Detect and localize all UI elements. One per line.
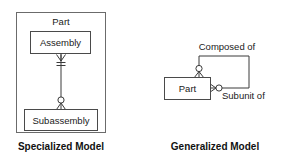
er-diagram-figure: Part Assembly	[0, 0, 282, 162]
relationship-label-composed-of: Composed of	[199, 41, 256, 52]
container-label-part: Part	[52, 16, 70, 27]
cardinality-zero-or-many-right	[210, 84, 223, 93]
panel-caption-generalized: Generalized Model	[171, 141, 260, 152]
panel-specialized: Part Assembly	[17, 13, 106, 153]
cardinality-zero-or-many-top	[194, 65, 204, 78]
entity-label-subassembly: Subassembly	[32, 115, 89, 126]
entity-label-assembly: Assembly	[40, 37, 81, 48]
panel-caption-specialized: Specialized Model	[18, 141, 104, 152]
entity-label-part: Part	[179, 83, 197, 94]
relationship-label-subunit-of: Subunit of	[222, 90, 265, 101]
panel-generalized: Composed of	[165, 41, 266, 152]
